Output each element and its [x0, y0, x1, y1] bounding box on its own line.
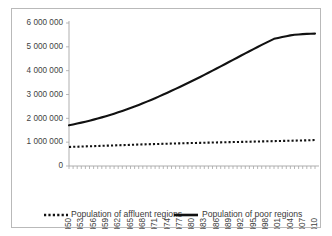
legend-label-poor-regions: Population of poor regions: [202, 209, 302, 219]
x-axis-tick-label: 2007: [298, 218, 307, 229]
chart-legend: Population of affluent regionsPopulation…: [44, 209, 302, 219]
y-axis-tick-label: 0: [58, 161, 63, 170]
x-axis-tick-label: 1950: [64, 218, 73, 229]
series-line-poor-regions: [69, 34, 315, 126]
x-axis-tick-label: 2001: [273, 218, 282, 229]
y-axis-tick-label: 5 000 000: [27, 42, 64, 51]
y-axis-tick-label: 3 000 000: [27, 90, 64, 99]
y-axis-tick-labels: 01 000 0002 000 0003 000 0004 000 0005 0…: [27, 18, 64, 170]
x-axis-tick-labels: 1950195319561959196219651968197119741977…: [64, 218, 319, 229]
y-axis-tick-label: 6 000 000: [27, 18, 64, 27]
x-axis-tick-label: 1974: [163, 218, 172, 229]
population-line-chart: 01 000 0002 000 0003 000 0004 000 0005 0…: [12, 9, 322, 229]
x-axis-tick-label: 1992: [236, 218, 245, 229]
legend-label-affluent-regions: Population of affluent regions: [71, 209, 182, 219]
y-axis-tick-label: 4 000 000: [27, 66, 64, 75]
y-axis-tick-label: 1 000 000: [27, 137, 64, 146]
x-axis-tick-label: 1962: [113, 218, 122, 229]
x-axis-tick-label: 1965: [126, 218, 135, 229]
x-axis-tick-label: 2004: [286, 218, 295, 229]
y-axis-tick-label: 2 000 000: [27, 114, 64, 123]
x-axis-tick-label: 1953: [76, 218, 85, 229]
x-axis-tick-label: 1968: [138, 218, 147, 229]
series-line-affluent-regions: [69, 140, 315, 147]
x-axis-tick-label: 1959: [101, 218, 110, 229]
x-axis-tick-label: 2010: [310, 218, 319, 229]
x-axis-tick-label: 1989: [224, 218, 233, 229]
x-axis-tick-label: 1986: [212, 218, 221, 229]
series-lines: [69, 34, 315, 147]
x-axis-tick-label: 1956: [89, 218, 98, 229]
x-axis-tick-label: 1980: [187, 218, 196, 229]
x-axis-tick-marks: [69, 166, 315, 169]
x-axis-tick-label: 1998: [261, 218, 270, 229]
x-axis-tick-label: 1995: [249, 218, 258, 229]
x-axis-tick-label: 1983: [199, 218, 208, 229]
x-axis-tick-label: 1977: [175, 218, 184, 229]
x-axis-tick-label: 1971: [150, 218, 159, 229]
chart-figure: 01 000 0002 000 0003 000 0004 000 0005 0…: [11, 8, 321, 228]
